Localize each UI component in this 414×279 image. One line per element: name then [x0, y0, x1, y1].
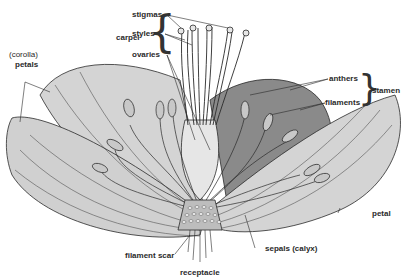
label-petals: petals — [15, 61, 38, 69]
label-corolla: (corolla) — [9, 51, 38, 59]
flower-diagram: carpel { stigmas styles ovaries (corolla… — [0, 0, 414, 279]
label-stamen: stamen — [372, 87, 400, 95]
label-ovaries: ovaries — [132, 51, 160, 59]
label-receptacle: receptacle — [180, 269, 220, 277]
label-filaments: filaments — [325, 99, 360, 107]
label-petal: petal — [372, 210, 391, 218]
label-anthers: anthers — [329, 75, 358, 83]
label-styles: styles — [132, 30, 155, 38]
label-stigmas: stigmas — [132, 11, 162, 19]
label-sepals-calyx: sepals (calyx) — [265, 245, 317, 253]
flower-illustration — [0, 0, 414, 279]
label-filament-scar: filament scar — [125, 252, 174, 260]
stigma-tips — [178, 25, 249, 36]
